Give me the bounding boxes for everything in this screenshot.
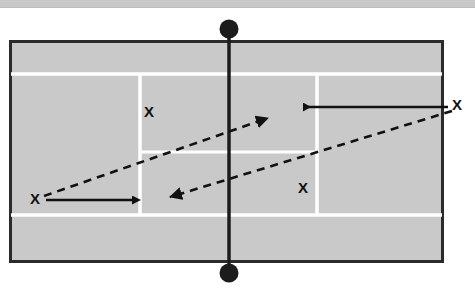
target-marker-upper-left: X	[144, 103, 154, 120]
net-post-bottom	[220, 264, 239, 283]
net-post-top	[220, 20, 239, 39]
diagram-canvas: X X X X	[0, 0, 475, 288]
target-marker-lower-right: X	[298, 179, 308, 196]
tennis-court-diagram: X X X X	[0, 0, 475, 288]
player-marker-left: X	[30, 190, 40, 207]
player-marker-right: X	[452, 96, 462, 113]
